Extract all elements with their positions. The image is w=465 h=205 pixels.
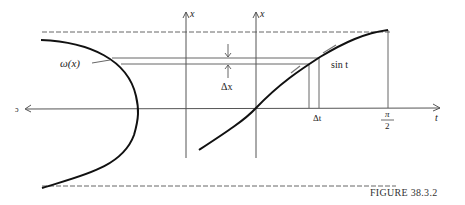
omega-leader-line bbox=[92, 60, 110, 63]
delta-x-label: Δx bbox=[221, 81, 232, 92]
left-arrow-label: ɔ bbox=[15, 105, 19, 114]
sin-t-label: sin t bbox=[331, 59, 348, 70]
omega-curve bbox=[41, 40, 138, 188]
t-axis-label: t bbox=[435, 112, 438, 123]
omega-label: ω(x) bbox=[60, 57, 80, 70]
t-axis bbox=[26, 108, 440, 109]
t-axis-right-arrow-icon bbox=[433, 104, 440, 111]
figure-caption: FIGURE 38.3.2 bbox=[370, 187, 438, 198]
left-x-axis-label: x bbox=[189, 8, 195, 19]
pi-label: π bbox=[385, 109, 390, 119]
two-label: 2 bbox=[385, 121, 390, 131]
figure-diagram: x x ω(x) Δx sin t Δt π 2 t ɔ bbox=[0, 0, 465, 205]
right-x-axis-label: x bbox=[259, 8, 265, 19]
delta-t-label: Δt bbox=[313, 113, 322, 123]
